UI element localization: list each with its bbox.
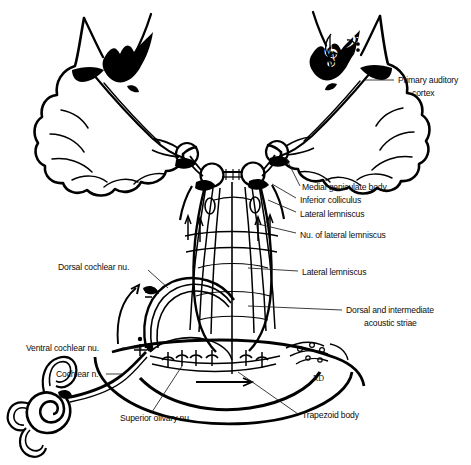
- label-trapezoid-body: Trapezoid body: [302, 410, 360, 420]
- auditory-pathway-diagram: 𝄞 𝄢: [0, 0, 471, 465]
- label-primary-auditory-cortex-line2: cortex: [412, 88, 435, 98]
- label-nucleus-of-lateral-lemniscus: Nu. of lateral lemniscus: [300, 230, 386, 240]
- label-dorsal-intermediate-striae-line2: acoustic striae: [364, 318, 417, 328]
- label-dorsal-intermediate-striae-line1: Dorsal and intermediate: [346, 305, 434, 315]
- label-dorsal-cochlear-nucleus: Dorsal cochlear nu.: [58, 262, 129, 272]
- label-medial-geniculate-body: Medial geniculate body: [302, 182, 387, 192]
- label-ventral-cochlear-nucleus: Ventral cochlear nu.: [26, 343, 99, 353]
- artist-signature: RD: [313, 374, 324, 383]
- label-cochlear-nerve: Cochlear n.: [56, 369, 98, 379]
- label-lateral-lemniscus-upper: Lateral lemniscus: [300, 209, 364, 219]
- label-primary-auditory-cortex-line1: Primary auditory: [398, 75, 459, 85]
- label-lateral-lemniscus-lower: Lateral lemniscus: [302, 267, 366, 277]
- label-inferior-colliculus: Inferior colliculus: [300, 195, 361, 205]
- label-superior-olivary-nucleus: Superior olivary nu.: [120, 413, 191, 423]
